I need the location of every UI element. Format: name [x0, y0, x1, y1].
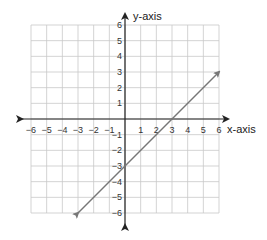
x-tick-label: 4: [185, 125, 190, 135]
y-tick-label: 4: [117, 51, 122, 61]
y-tick-label: −1: [112, 130, 122, 140]
y-tick-label: −2: [112, 145, 122, 155]
coordinate-plane: −6−5−4−3−2−1123456 −6−5−4−3−2−1123456 x-…: [0, 0, 267, 240]
y-tick-label: −5: [112, 192, 122, 202]
x-tick-label: 5: [201, 125, 206, 135]
x-tick-label: 3: [169, 125, 174, 135]
y-axis-label: y-axis: [133, 10, 162, 22]
y-tick-label: 6: [117, 20, 122, 30]
y-tick-label: −6: [112, 208, 122, 218]
y-tick-label: 2: [117, 83, 122, 93]
x-tick-label: 6: [216, 125, 221, 135]
x-tick-label: 1: [138, 125, 143, 135]
data-series: [78, 72, 219, 213]
x-tick-label: −2: [89, 125, 99, 135]
series-line: [78, 72, 219, 213]
y-tick-label: 5: [117, 36, 122, 46]
x-tick-labels: −6−5−4−3−2−1123456: [26, 125, 222, 135]
axes: [22, 14, 228, 225]
x-tick-label: −3: [73, 125, 83, 135]
x-axis-label: x-axis: [227, 123, 256, 135]
y-tick-label: 3: [117, 67, 122, 77]
x-tick-label: −5: [42, 125, 52, 135]
x-tick-label: −6: [26, 125, 36, 135]
x-tick-label: −4: [57, 125, 67, 135]
y-tick-label: 1: [117, 98, 122, 108]
